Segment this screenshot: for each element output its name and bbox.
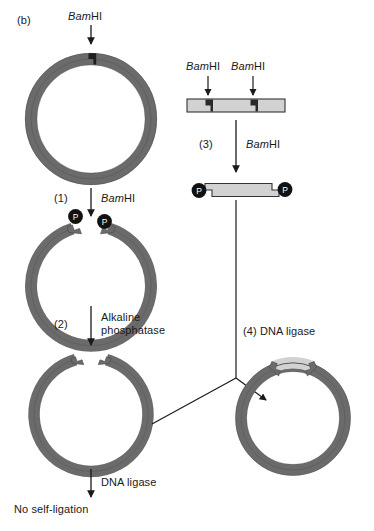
- phosphate-marker-insert-right: P: [278, 182, 293, 197]
- plasmid-vector-dephosphorylated: [34, 357, 148, 472]
- label-no-self-ligation: No self-ligation: [14, 503, 88, 516]
- label-step1-number: (1): [54, 192, 68, 205]
- alkaline-line1: Alkaline: [101, 311, 140, 323]
- phosphate-marker-vector-left: P: [68, 209, 83, 224]
- bamhi-italic-prefix: Bam: [101, 192, 124, 204]
- dna-insert-cut: P P: [192, 182, 293, 198]
- plasmid-vector-uncut: [25, 53, 157, 185]
- bamhi-italic-prefix: Bam: [68, 10, 91, 22]
- phosphate-letter: P: [196, 186, 202, 196]
- bamhi-suffix: HI: [254, 60, 265, 72]
- cloning-workflow-diagram: P P P P: [0, 0, 374, 531]
- phosphate-letter: P: [102, 217, 108, 227]
- label-bamhi-top: BamHI: [68, 10, 102, 23]
- label-step3-number: (3): [199, 138, 213, 151]
- label-alkaline-phosphatase: Alkaline phosphatase: [101, 311, 193, 337]
- alkaline-line2: phosphatase: [101, 324, 165, 336]
- label-bamhi-site-left: BamHI: [186, 60, 220, 73]
- label-bamhi-site-right: BamHI: [231, 60, 265, 73]
- bamhi-italic-prefix: Bam: [186, 60, 209, 72]
- label-step1-enzyme: BamHI: [101, 192, 135, 205]
- panel-label: (b): [17, 14, 31, 27]
- label-step2-number: (2): [54, 318, 68, 331]
- bamhi-italic-prefix: Bam: [231, 60, 254, 72]
- bamhi-suffix: HI: [91, 10, 102, 22]
- plasmid-recombinant: [236, 361, 351, 476]
- phosphate-letter: P: [282, 185, 288, 195]
- bamhi-suffix: HI: [209, 60, 220, 72]
- label-step3-enzyme: BamHI: [246, 138, 280, 151]
- bamhi-italic-prefix: Bam: [246, 138, 269, 150]
- bamhi-suffix: HI: [124, 192, 135, 204]
- label-step4-dna-ligase: (4) DNA ligase: [243, 325, 315, 338]
- label-left-dna-ligase: DNA ligase: [101, 476, 156, 489]
- phosphate-marker-vector-right: P: [97, 214, 112, 229]
- bamhi-suffix: HI: [269, 138, 280, 150]
- phosphate-letter: P: [73, 212, 79, 222]
- phosphate-marker-insert-left: P: [192, 183, 207, 198]
- linear-dna-fragment-uncut: [187, 99, 285, 112]
